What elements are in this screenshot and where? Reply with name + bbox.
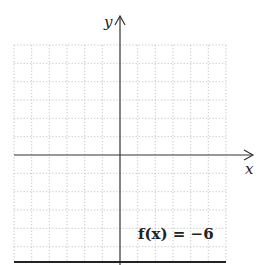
function-label: f(x) = −6 (138, 225, 214, 243)
coordinate-plane: x y f(x) = −6 (0, 0, 268, 265)
x-axis (14, 150, 253, 160)
x-axis-label: x (245, 160, 254, 178)
y-axis (115, 16, 125, 265)
y-axis-label: y (103, 13, 113, 31)
